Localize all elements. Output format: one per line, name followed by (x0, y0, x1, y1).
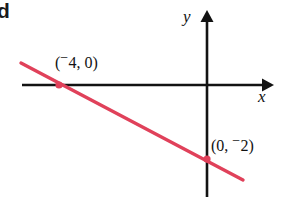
point-label-y-intercept: (0, −2) (211, 133, 254, 154)
point-marker-x-intercept (55, 81, 62, 88)
x-intercept-close-paren: ) (93, 54, 98, 71)
y-axis-arrowhead-icon (201, 10, 214, 22)
y-intercept-value: 2 (241, 137, 249, 154)
y-intercept-negative-sign: − (232, 132, 240, 148)
coordinate-plane-svg (0, 0, 283, 197)
x-intercept-value: 4, 0 (69, 54, 93, 71)
point-label-x-intercept: (−4, 0) (55, 50, 98, 71)
y-intercept-close-paren: ) (249, 137, 254, 154)
y-axis-label: y (183, 8, 191, 25)
graph-figure: d y x (−4, 0) (0, −2) (0, 0, 283, 197)
x-axis-label: x (258, 88, 266, 105)
plotted-line (21, 63, 243, 180)
point-marker-y-intercept (203, 155, 210, 162)
y-intercept-open-paren: (0, (211, 137, 232, 154)
x-intercept-negative-sign: − (60, 49, 68, 65)
